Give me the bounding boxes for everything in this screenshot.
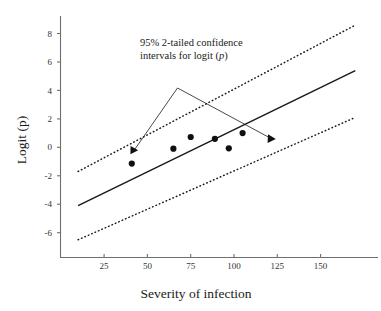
y-tick-label: 0 xyxy=(48,142,53,152)
x-tick-label: 50 xyxy=(143,261,153,271)
x-tick-label: 75 xyxy=(186,261,196,271)
y-tick-label: -6 xyxy=(45,228,53,238)
x-tick-label: 125 xyxy=(271,261,285,271)
logit-regression-chart: 8 6 4 2 0 -2 -4 -6 25 50 75 100 125 150 xyxy=(0,0,381,311)
annotation-line-2-post: ) xyxy=(224,50,228,62)
y-axis-title-pre: Logit ( xyxy=(14,127,29,165)
annotation-line-1: 95% 2-tailed confidence xyxy=(140,37,243,48)
data-point xyxy=(170,146,176,152)
chart-figure: 8 6 4 2 0 -2 -4 -6 25 50 75 100 125 150 xyxy=(0,0,381,311)
data-point xyxy=(212,136,218,142)
y-axis-title-post: ) xyxy=(14,116,29,121)
y-tick-label: -2 xyxy=(45,171,53,181)
data-point xyxy=(226,145,232,151)
y-tick-label: -4 xyxy=(45,199,53,209)
x-tick-label: 25 xyxy=(100,261,110,271)
y-tick-label: 2 xyxy=(48,114,53,124)
y-tick-label: 4 xyxy=(48,86,53,96)
y-tick-label: 8 xyxy=(48,29,53,39)
annotation-line-2: intervals for logit (p) xyxy=(140,50,228,62)
x-tick-label: 150 xyxy=(314,261,328,271)
data-point xyxy=(240,130,246,136)
data-point xyxy=(129,161,135,167)
annotation-line-2-pre: intervals for logit ( xyxy=(140,50,220,62)
x-tick-label: 100 xyxy=(227,261,241,271)
x-axis-title: Severity of infection xyxy=(141,286,252,301)
y-axis-title: Logit (p) xyxy=(14,116,29,164)
y-tick-label: 6 xyxy=(48,57,53,67)
data-point xyxy=(188,134,194,140)
